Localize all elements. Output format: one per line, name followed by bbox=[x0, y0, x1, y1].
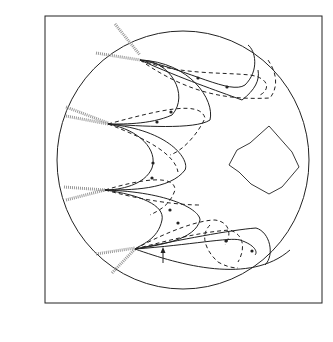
branch-points bbox=[150, 76, 253, 252]
phase-plot bbox=[0, 0, 333, 342]
dashed-branches bbox=[105, 60, 276, 268]
outer-boundary-curve bbox=[57, 31, 309, 289]
inner-region-curve bbox=[229, 126, 299, 194]
boundary-arrow-head bbox=[161, 247, 166, 253]
